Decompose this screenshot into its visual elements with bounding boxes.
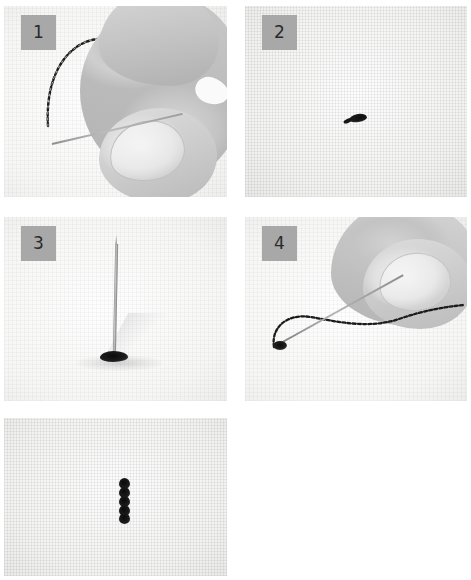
stitch-segment — [119, 513, 130, 524]
panel-step-3[interactable]: 3 — [4, 217, 227, 401]
panel-step-4[interactable]: 4 — [245, 217, 467, 401]
tutorial-sheet: 1 2 3 4 — [0, 0, 471, 580]
fabric-background-5 — [4, 418, 227, 576]
step-badge-4: 4 — [262, 226, 297, 261]
panel-step-2[interactable]: 2 — [245, 6, 467, 197]
step-badge-1: 1 — [21, 15, 56, 50]
step-badge-2: 2 — [262, 15, 297, 50]
panel-step-5[interactable] — [4, 418, 227, 576]
panel-step-1[interactable]: 1 — [4, 6, 227, 197]
thread-4 — [265, 295, 465, 355]
thread-knot-3 — [100, 351, 128, 362]
thread-path-4 — [265, 295, 465, 355]
step-badge-3: 3 — [21, 226, 56, 261]
thread-knot-4 — [273, 341, 287, 350]
finished-stitch-5 — [119, 478, 130, 524]
